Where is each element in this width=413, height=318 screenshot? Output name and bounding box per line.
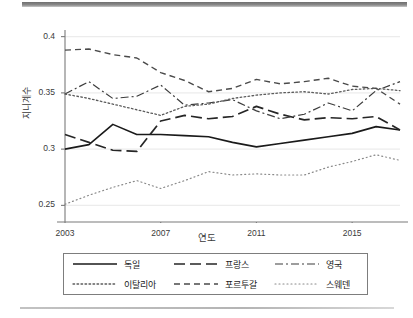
legend-entry: 스웨덴	[266, 278, 367, 291]
legend-line-sample	[274, 259, 320, 269]
plot-area: 지니계수 0.250.30.350.4 2003200720112015	[0, 8, 413, 223]
legend-label: 영국	[326, 258, 342, 271]
scan-bottom-rule	[20, 307, 394, 309]
y-axis-label: 지니계수	[20, 73, 33, 133]
legend-label: 독일	[124, 258, 140, 271]
legend-label: 프랑스	[225, 258, 249, 271]
figure-page: 지니계수 0.250.30.350.4 2003200720112015 연도 …	[0, 0, 413, 318]
legend-entry: 프랑스	[165, 258, 266, 271]
y-tick-label: 0.4	[29, 31, 55, 41]
series-line	[65, 124, 400, 149]
legend-entry: 영국	[266, 258, 367, 271]
y-tick-label: 0.35	[29, 87, 55, 97]
series-line	[65, 49, 400, 104]
legend-entry: 이탈리아	[64, 278, 165, 291]
y-tick-label: 0.25	[29, 199, 55, 209]
legend-entry: 포르투갈	[165, 278, 266, 291]
series-line	[65, 82, 400, 119]
legend-line-sample	[72, 259, 118, 269]
legend-label: 스웨덴	[326, 278, 350, 291]
y-tick-label: 0.3	[29, 143, 55, 153]
chart-legend: 독일프랑스영국이탈리아포르투갈스웨덴	[63, 253, 368, 295]
series-line	[65, 155, 400, 205]
legend-label: 이탈리아	[124, 278, 156, 291]
scan-top-bar	[22, 2, 407, 7]
legend-line-sample	[173, 279, 219, 289]
legend-line-sample	[274, 279, 320, 289]
plot-svg	[0, 8, 413, 223]
legend-label: 포르투갈	[225, 278, 257, 291]
legend-line-sample	[72, 279, 118, 289]
series-line	[65, 106, 400, 151]
line-chart-figure: 지니계수 0.250.30.350.4 2003200720112015 연도	[0, 8, 413, 248]
x-axis-label: 연도	[0, 230, 413, 244]
legend-entry: 독일	[64, 258, 165, 271]
legend-line-sample	[173, 259, 219, 269]
